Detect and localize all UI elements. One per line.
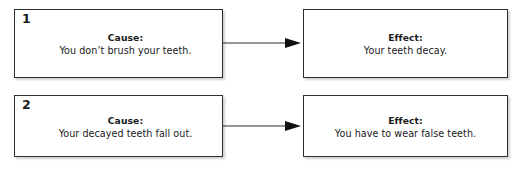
cause-box: 1 Cause: You don’t brush your teeth. xyxy=(14,9,223,78)
cause-text-block: Cause: You don’t brush your teeth. xyxy=(15,31,222,58)
cause-effect-diagram: 1 Cause: You don’t brush your teeth. Eff… xyxy=(0,0,526,173)
cause-heading: Cause: xyxy=(33,114,218,127)
row-number-label: 1 xyxy=(22,13,31,26)
effect-text-block: Effect: Your teeth decay. xyxy=(304,31,507,58)
cause-body-text: Your decayed teeth fall out. xyxy=(33,127,218,141)
effect-heading: Effect: xyxy=(304,31,507,44)
effect-body-text: Your teeth decay. xyxy=(304,44,507,58)
effect-text-block: Effect: You have to wear false teeth. xyxy=(304,114,507,141)
effect-heading: Effect: xyxy=(304,114,507,127)
arrow-right-icon xyxy=(223,120,303,132)
effect-body-text: You have to wear false teeth. xyxy=(304,127,507,141)
arrow-right-icon xyxy=(223,37,303,49)
effect-box: Effect: Your teeth decay. xyxy=(303,9,508,78)
cause-text-block: Cause: Your decayed teeth fall out. xyxy=(15,114,222,141)
cause-heading: Cause: xyxy=(33,31,218,44)
diagram-row: 1 Cause: You don’t brush your teeth. Eff… xyxy=(0,9,526,78)
cause-body-text: You don’t brush your teeth. xyxy=(33,44,218,58)
effect-box: Effect: You have to wear false teeth. xyxy=(303,95,508,157)
row-number-label: 2 xyxy=(22,99,31,112)
diagram-row: 2 Cause: Your decayed teeth fall out. Ef… xyxy=(0,95,526,157)
cause-box: 2 Cause: Your decayed teeth fall out. xyxy=(14,95,223,157)
